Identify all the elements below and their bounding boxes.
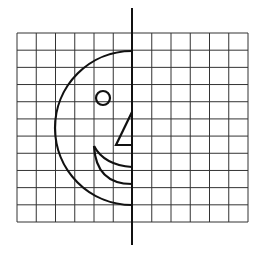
symmetry-diagram: Half face on grid with line of symmetry [0,0,263,255]
diagram-svg [0,0,263,255]
eye-circle [96,91,110,105]
nose-line [116,112,132,145]
